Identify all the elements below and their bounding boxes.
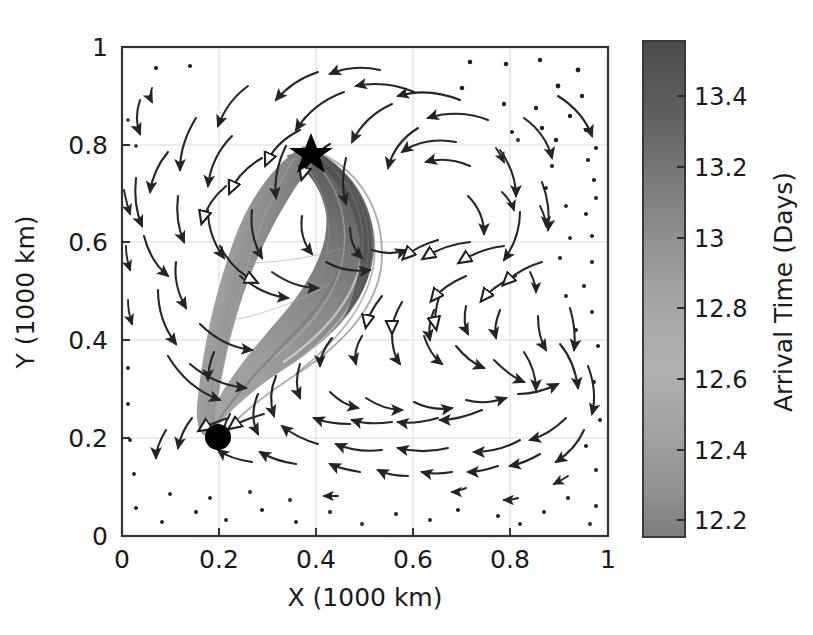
colorbar-tick-labels: 12.2 12.4 12.6 12.8 13 13.2 13.4: [694, 83, 747, 535]
x-tick-label: 0.6: [393, 545, 433, 574]
colorbar-title: Arrival Time (Days): [769, 172, 798, 412]
figure-panel: 0 0.2 0.4 0.6 0.8 1 0 0.2 0.4 0.6 0.8 1 …: [0, 0, 813, 635]
x-tick-label: 0.4: [296, 545, 336, 574]
x-tick-label: 0.8: [490, 545, 530, 574]
x-tick-label: 0: [114, 545, 130, 574]
y-axis-title: Y (1000 km): [11, 215, 40, 369]
receptor-circle-marker: [205, 424, 231, 450]
arrival-time-plume-chart: 0 0.2 0.4 0.6 0.8 1 0 0.2 0.4 0.6 0.8 1 …: [0, 0, 813, 635]
x-tick-labels: 0 0.2 0.4 0.6 0.8 1: [114, 545, 616, 574]
x-tick-label: 0.2: [199, 545, 239, 574]
y-tick-label: 0.6: [68, 228, 108, 257]
x-tick-label: 1: [600, 545, 616, 574]
y-tick-labels: 0 0.2 0.4 0.6 0.8 1: [68, 33, 108, 551]
colorbar-tick-label: 13.2: [694, 154, 747, 182]
colorbar-tick-label: 12.4: [694, 437, 747, 465]
x-axis-title: X (1000 km): [288, 583, 443, 612]
y-tick-label: 0: [92, 522, 108, 551]
colorbar-tick-label: 13: [694, 225, 725, 253]
y-tick-label: 0.8: [68, 131, 108, 160]
colorbar-tick-label: 12.6: [694, 366, 747, 394]
y-tick-label: 0.2: [68, 424, 108, 453]
y-tick-label: 0.4: [68, 326, 108, 355]
y-tick-label: 1: [92, 33, 108, 62]
colorbar: 12.2 12.4 12.6 12.8 13 13.2 13.4 Arrival…: [643, 41, 798, 537]
colorbar-tick-label: 12.2: [694, 507, 747, 535]
colorbar-tick-label: 12.8: [694, 295, 747, 323]
colorbar-tick-label: 13.4: [694, 83, 747, 111]
colorbar-gradient: [643, 41, 685, 537]
